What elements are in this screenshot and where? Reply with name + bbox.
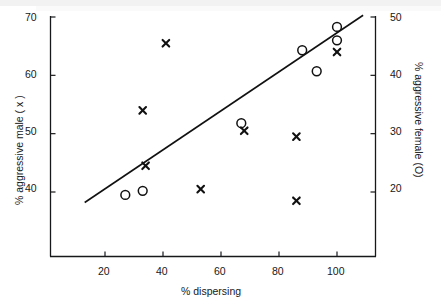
- ytick-label-left: 60: [25, 69, 37, 80]
- data-point-female-o: [312, 67, 321, 76]
- regression-line: [85, 15, 363, 202]
- axis-ticks: [51, 17, 376, 257]
- ytick-label-left: 70: [25, 12, 37, 23]
- data-point-male-x: [163, 40, 170, 47]
- data-point-female-o: [333, 36, 342, 45]
- x-axis-label: % dispersing: [181, 286, 241, 297]
- trendline-group: [85, 15, 363, 202]
- data-point-male-x: [142, 162, 149, 169]
- ytick-label-right: 40: [390, 69, 402, 80]
- ytick-label-left: 40: [25, 183, 37, 194]
- data-point-male-x: [334, 49, 341, 56]
- data-point-female-o: [138, 186, 147, 195]
- data-markers: [121, 23, 342, 205]
- ytick-label-right: 20: [390, 183, 402, 194]
- ytick-label-right: 30: [390, 126, 402, 137]
- xtick-label: 60: [214, 266, 226, 277]
- xtick-label: 80: [272, 266, 284, 277]
- data-point-female-o: [333, 23, 342, 32]
- data-point-male-x: [293, 133, 300, 140]
- data-point-male-x: [293, 197, 300, 204]
- data-point-male-x: [139, 107, 146, 114]
- xtick-label: 40: [156, 266, 168, 277]
- data-point-female-o: [298, 46, 307, 55]
- axis-spines: [50, 16, 376, 257]
- ytick-label-left: 50: [25, 126, 37, 137]
- scatter-plot-canvas: [0, 0, 441, 305]
- y-axis-label-right: % aggressive female (O): [414, 62, 425, 178]
- xtick-label: 100: [327, 266, 345, 277]
- xtick-label: 20: [98, 266, 110, 277]
- data-point-female-o: [237, 119, 246, 128]
- data-point-male-x: [197, 186, 204, 193]
- data-point-female-o: [121, 191, 130, 200]
- figure-root: 70 60 50 40 50 40 30 20 20 40 60 80 100 …: [0, 0, 441, 305]
- ytick-label-right: 50: [390, 12, 402, 23]
- y-axis-label-left: % aggressive male ( x ): [14, 95, 25, 205]
- data-point-male-x: [241, 127, 248, 134]
